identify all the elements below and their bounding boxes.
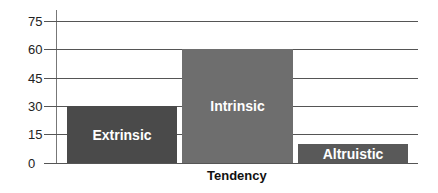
bar-extrinsic: Extrinsic	[67, 106, 177, 163]
gridline-0	[44, 163, 418, 164]
y-tick-label: 30	[28, 100, 68, 113]
x-axis-title: Tendency	[207, 168, 267, 183]
bar-altruistic: Altruistic	[298, 144, 408, 163]
bar-intrinsic: Intrinsic	[182, 49, 293, 163]
y-tick-label: 75	[28, 15, 68, 28]
bar-chart: 75 60 45 30 15 0 Extrinsic Intrinsic Alt…	[0, 0, 438, 193]
y-tick-label: 15	[28, 128, 68, 141]
bar-label: Altruistic	[323, 146, 384, 162]
y-tick-label: 45	[28, 72, 68, 85]
y-tick-label: 0	[28, 157, 68, 170]
gridline-75	[44, 21, 418, 22]
bar-label: Extrinsic	[92, 127, 151, 143]
y-tick-label: 60	[28, 43, 68, 56]
bar-label: Intrinsic	[210, 98, 264, 114]
